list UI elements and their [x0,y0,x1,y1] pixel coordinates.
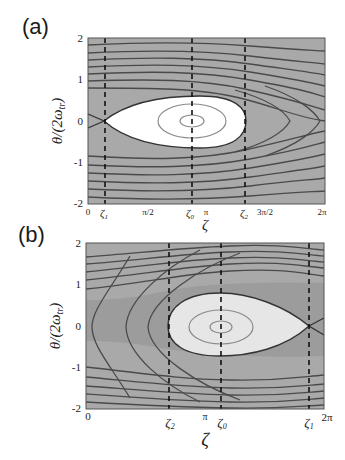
yticks-b: 2 1 0 -1 -2 [72,237,82,414]
xticks-b: 0 ζ2 π ζ0 ζ1 2π [85,410,333,431]
svg-text:-1: -1 [72,361,81,373]
ylabel-b: θ/(2ωtr) [47,303,65,349]
svg-text:ζ1: ζ1 [304,415,313,431]
svg-text:2π: 2π [321,411,333,423]
panel-b: (b) [0,0,345,460]
svg-text:2: 2 [76,237,82,249]
svg-text:ζ2: ζ2 [165,415,174,431]
svg-text:0: 0 [76,320,82,332]
svg-text:π: π [202,411,207,422]
xlabel-b: ζ [201,429,210,450]
svg-text:-2: -2 [72,402,81,414]
phase-portrait-b: 2 1 0 -1 -2 0 ζ2 π ζ0 ζ1 2π ζ θ/(2ωtr) [0,0,345,460]
svg-text:ζ0: ζ0 [217,415,226,431]
svg-text:1: 1 [76,278,82,290]
svg-text:0: 0 [85,410,91,422]
